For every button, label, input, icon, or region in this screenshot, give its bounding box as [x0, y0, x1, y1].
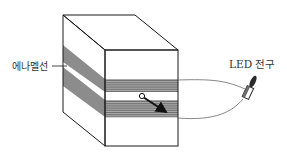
enamel-wire-label: 에나멜선	[12, 61, 48, 72]
side-coil-bands	[63, 45, 105, 117]
box-top-face	[63, 15, 178, 50]
wire-lower	[178, 99, 243, 119]
wire-upper	[178, 80, 245, 89]
magnet-pivot-icon	[139, 93, 144, 98]
coil-led-diagram: 에나멜선 LED 전구	[0, 0, 287, 159]
led-bulb-label: LED 전구	[229, 58, 275, 70]
front-coil-upper	[105, 79, 178, 92]
led-bulb	[242, 74, 259, 99]
